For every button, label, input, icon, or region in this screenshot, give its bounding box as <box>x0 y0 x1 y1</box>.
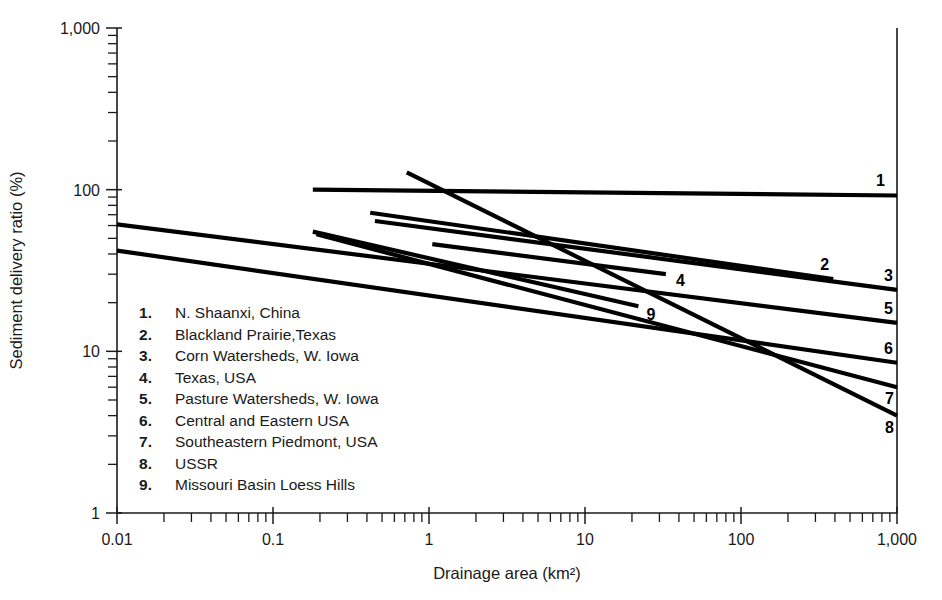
legend-number-9: 9. <box>139 476 152 493</box>
x-tick-label: 1 <box>425 531 434 548</box>
y-tick-label: 1 <box>91 505 100 522</box>
legend-number-8: 8. <box>139 455 152 472</box>
x-axis-title: Drainage area (km²) <box>433 564 581 582</box>
x-tick-label: 0.1 <box>262 531 284 548</box>
series-label-5: 5 <box>884 300 893 317</box>
series-line-8 <box>407 172 897 415</box>
legend-label-7: Southeastern Piedmont, USA <box>175 433 378 450</box>
legend-number-1: 1. <box>139 304 152 321</box>
y-tick-label: 1,000 <box>60 20 100 37</box>
sediment-delivery-ratio-chart: 123456789 1101001,0000.010.11101001,000 … <box>0 0 942 600</box>
legend-number-7: 7. <box>139 433 152 450</box>
legend-label-1: N. Shaanxi, China <box>175 304 300 321</box>
series-label-1: 1 <box>876 172 885 189</box>
y-tick-label: 100 <box>73 182 100 199</box>
series-label-3: 3 <box>884 267 893 284</box>
legend-label-6: Central and Eastern USA <box>175 412 350 429</box>
legend-number-6: 6. <box>139 412 152 429</box>
legend-number-2: 2. <box>139 326 152 343</box>
series-label-4: 4 <box>676 272 685 289</box>
legend-number-4: 4. <box>139 369 152 386</box>
series-label-6: 6 <box>884 340 893 357</box>
y-axis-title: Sediment delivery ratio (%) <box>7 171 25 369</box>
legend-number-3: 3. <box>139 347 152 364</box>
legend-label-4: Texas, USA <box>175 369 257 386</box>
series-label-7: 7 <box>885 390 894 407</box>
series-label-2: 2 <box>820 256 829 273</box>
legend-number-5: 5. <box>139 390 152 407</box>
legend-label-8: USSR <box>175 455 218 472</box>
legend: 1.N. Shaanxi, China2.Blackland Prairie,T… <box>139 304 379 493</box>
x-tick-label: 1,000 <box>877 531 917 548</box>
legend-label-9: Missouri Basin Loess Hills <box>175 476 355 493</box>
legend-label-5: Pasture Watersheds, W. Iowa <box>175 390 379 407</box>
x-tick-label: 10 <box>576 531 594 548</box>
chart-page: 123456789 1101001,0000.010.11101001,000 … <box>0 0 942 600</box>
series-line-1 <box>313 190 897 196</box>
series-line-3 <box>375 221 897 290</box>
legend-label-2: Blackland Prairie,Texas <box>175 326 336 343</box>
x-tick-label: 0.01 <box>101 531 132 548</box>
series-label-9: 9 <box>646 306 655 323</box>
series-label-8: 8 <box>885 419 894 436</box>
legend-label-3: Corn Watersheds, W. Iowa <box>175 347 359 364</box>
y-tick-label: 10 <box>82 343 100 360</box>
x-tick-label: 100 <box>728 531 755 548</box>
